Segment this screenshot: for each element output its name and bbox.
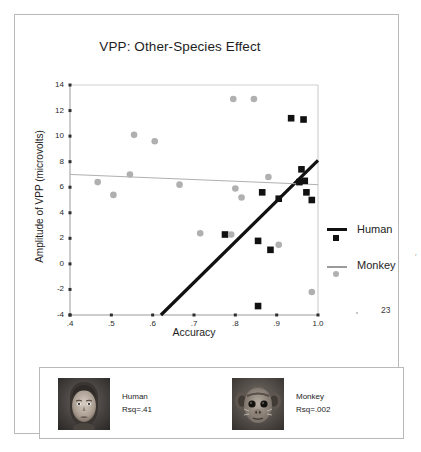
y-tick-label: 14 <box>42 80 64 89</box>
monkey-face-thumbnail <box>232 378 284 430</box>
y-tick-label: 10 <box>42 131 64 140</box>
data-point-monkey <box>197 230 204 237</box>
data-point-monkey <box>151 138 158 145</box>
y-tick-label: 6 <box>42 182 64 191</box>
data-point-monkey <box>265 174 272 181</box>
monkey-caption: Monkey Rsq=.002 <box>296 390 330 416</box>
data-point-human <box>303 189 310 196</box>
data-point-monkey <box>230 96 237 103</box>
data-point-human <box>275 195 282 202</box>
legend-swatch-monkey <box>327 262 349 276</box>
data-point-monkey <box>110 192 117 199</box>
data-point-monkey <box>94 179 101 186</box>
data-point-human <box>255 303 262 310</box>
human-caption-rsq: Rsq=.41 <box>122 403 152 416</box>
data-point-human <box>300 116 307 123</box>
data-point-human <box>309 197 316 204</box>
x-axis-label: Accuracy <box>70 326 318 338</box>
data-point-human <box>296 179 303 186</box>
data-point-monkey <box>251 96 258 103</box>
y-tick-label: 12 <box>42 106 64 115</box>
legend-swatch-human <box>327 226 349 240</box>
y-tick-label: -2 <box>42 284 64 293</box>
y-tick-label: 8 <box>42 157 64 166</box>
data-point-monkey <box>275 241 282 248</box>
monkey-face-image <box>232 378 284 430</box>
data-point-monkey <box>309 289 316 296</box>
stray-dot-icon <box>356 312 358 314</box>
chart-legend: Human Monkey ′ <box>327 222 411 294</box>
data-point-monkey <box>176 181 183 188</box>
y-axis-label: Amplitude of VPP (microvolts) <box>34 97 45 297</box>
y-tick-label: 4 <box>42 208 64 217</box>
data-point-human <box>255 238 262 245</box>
page-number: 23 <box>381 305 390 315</box>
data-point-human <box>222 231 229 238</box>
data-point-monkey <box>232 185 239 192</box>
data-point-human <box>301 178 308 185</box>
data-point-human <box>259 189 266 196</box>
monkey-caption-rsq: Rsq=.002 <box>296 403 330 416</box>
data-point-human <box>288 115 295 122</box>
human-caption: Human Rsq=.41 <box>122 390 152 416</box>
data-point-monkey <box>228 231 235 238</box>
data-point-monkey <box>131 132 138 139</box>
slide-frame: VPP: Other-Species Effect -4-20246810121… <box>14 14 399 434</box>
data-point-monkey <box>238 194 245 201</box>
data-point-human <box>267 247 274 254</box>
stimulus-panel: Human Rsq=.41 <box>39 367 404 439</box>
human-face-image <box>58 378 110 430</box>
human-face-thumbnail <box>58 378 110 430</box>
legend-item-monkey: Monkey ′ <box>327 258 411 294</box>
y-tick-label: -4 <box>42 310 64 319</box>
legend-item-human: Human <box>327 222 411 258</box>
monkey-caption-label: Monkey <box>296 390 330 403</box>
human-caption-label: Human <box>122 390 152 403</box>
data-point-monkey <box>127 171 134 178</box>
chart-title: VPP: Other-Species Effect <box>15 39 345 54</box>
y-tick-label: 2 <box>42 233 64 242</box>
y-tick-label: 0 <box>42 259 64 268</box>
legend-label-monkey: Monkey <box>357 259 396 271</box>
legend-label-human: Human <box>357 223 392 235</box>
stray-mark-icon: ′ <box>415 252 417 261</box>
data-point-human <box>298 166 305 173</box>
